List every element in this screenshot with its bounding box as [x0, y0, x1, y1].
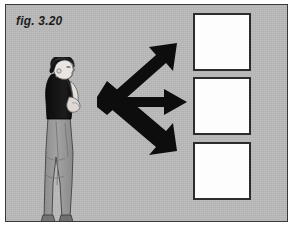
person-legs: [44, 113, 73, 219]
illustration-panel: fig. 3.20: [5, 4, 288, 222]
outcome-box-column: [193, 13, 257, 209]
outcome-box-1[interactable]: [193, 13, 251, 71]
outcome-box-2[interactable]: [193, 77, 251, 135]
arrow-group: [94, 33, 192, 155]
figure-illustration: fig. 3.20: [0, 0, 298, 239]
person-torso: [46, 74, 74, 119]
person-feet: [41, 215, 73, 222]
figure-caption-label: fig. 3.20: [16, 14, 62, 28]
outcome-box-3[interactable]: [193, 142, 251, 200]
